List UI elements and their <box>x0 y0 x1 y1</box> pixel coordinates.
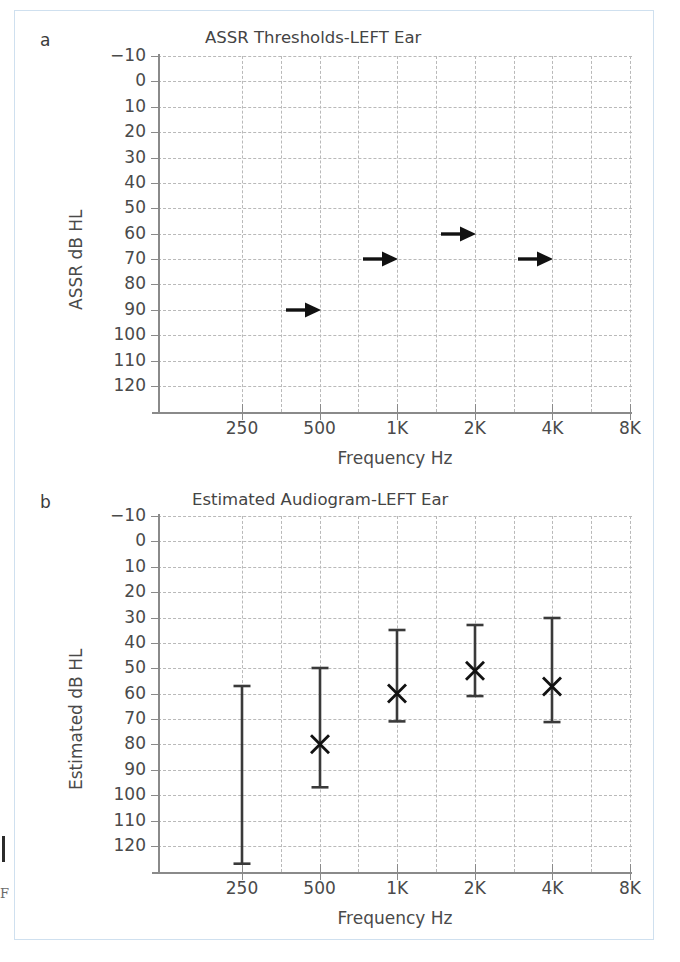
panel-a: a ASSR Thresholds-LEFT Ear −100102030405… <box>0 0 680 470</box>
y-axis-tick <box>151 386 158 387</box>
x-axis-tick-label: 500 <box>280 418 360 438</box>
gridline-vertical <box>591 516 592 872</box>
no-response-arrow-marker <box>514 248 554 270</box>
gridline-horizontal <box>158 386 632 387</box>
gridline-vertical <box>436 516 437 872</box>
panel-b: b Estimated Audiogram-LEFT Ear −10010203… <box>0 470 680 940</box>
error-bar-marker <box>377 614 417 737</box>
y-axis-tick-label: 110 <box>72 810 146 830</box>
gridline-vertical <box>552 56 553 412</box>
gridline-vertical <box>591 56 592 412</box>
y-axis-line <box>158 514 160 874</box>
y-axis-tick-label: 40 <box>72 172 146 192</box>
x-axis-tick-label: 1K <box>357 418 437 438</box>
y-axis-tick-label: −10 <box>72 45 146 65</box>
y-axis-tick <box>151 643 158 644</box>
gridline-vertical <box>320 56 321 412</box>
y-axis-tick <box>151 770 158 771</box>
gridline-horizontal <box>158 132 632 133</box>
y-axis-tick-label: 30 <box>72 607 146 627</box>
gridline-horizontal <box>158 56 632 57</box>
gridline-horizontal <box>158 592 632 593</box>
y-axis-tick <box>151 719 158 720</box>
gridline-horizontal <box>158 234 632 235</box>
y-axis-line <box>158 54 160 414</box>
y-axis-tick <box>151 335 158 336</box>
x-axis-tick-label: 500 <box>280 878 360 898</box>
y-axis-tick-label: 20 <box>72 121 146 141</box>
panel-b-plot-area: −1001020304050607080901001101202505001K2… <box>0 470 680 940</box>
y-axis-tick <box>151 694 158 695</box>
y-axis-tick-label: 20 <box>72 581 146 601</box>
y-axis-tick <box>151 107 158 108</box>
y-axis-tick <box>151 208 158 209</box>
gridline-horizontal <box>158 81 632 82</box>
y-axis-tick <box>151 795 158 796</box>
y-axis-tick-label: −10 <box>72 505 146 525</box>
x-axis-tick-label: 1K <box>357 878 437 898</box>
y-axis-tick-label: 10 <box>72 556 146 576</box>
y-axis-tick <box>151 846 158 847</box>
y-axis-title: ASSR dB HL <box>66 209 86 310</box>
gridline-horizontal <box>158 516 632 517</box>
y-axis-tick-label: 100 <box>72 324 146 344</box>
gridline-vertical <box>281 516 282 872</box>
gridline-horizontal <box>158 567 632 568</box>
x-axis-tick-label: 250 <box>202 878 282 898</box>
gridline-vertical <box>242 56 243 412</box>
y-axis-tick <box>151 592 158 593</box>
x-axis-title: Frequency Hz <box>158 448 632 468</box>
gridline-horizontal <box>158 208 632 209</box>
y-axis-tick <box>151 821 158 822</box>
y-axis-tick <box>151 56 158 57</box>
x-axis-tick-label: 8K <box>590 418 670 438</box>
error-bar-marker <box>532 602 572 738</box>
y-axis-tick-label: 30 <box>72 147 146 167</box>
gridline-vertical <box>397 56 398 412</box>
x-axis-line <box>152 412 632 414</box>
gridline-vertical <box>630 56 631 412</box>
y-axis-tick <box>151 81 158 82</box>
y-axis-tick <box>151 567 158 568</box>
x-axis-tick-label: 2K <box>435 418 515 438</box>
x-axis-tick-label: 4K <box>512 878 592 898</box>
gridline-vertical <box>358 516 359 872</box>
y-axis-tick <box>151 284 158 285</box>
x-axis-title: Frequency Hz <box>158 908 632 928</box>
gridline-horizontal <box>158 158 632 159</box>
gridline-horizontal <box>158 310 632 311</box>
y-axis-tick <box>151 234 158 235</box>
y-axis-tick <box>151 516 158 517</box>
y-axis-tick-label: 110 <box>72 350 146 370</box>
gridline-vertical <box>630 516 631 872</box>
no-response-arrow-marker <box>282 299 322 321</box>
y-axis-tick <box>151 259 158 260</box>
gridline-vertical <box>514 56 515 412</box>
y-axis-tick <box>151 668 158 669</box>
y-axis-tick-label: 0 <box>72 70 146 90</box>
y-axis-tick <box>151 158 158 159</box>
gridline-horizontal <box>158 183 632 184</box>
no-response-arrow-marker <box>359 248 399 270</box>
error-bar-marker <box>222 670 262 880</box>
gridline-horizontal <box>158 284 632 285</box>
y-axis-tick <box>151 361 158 362</box>
y-axis-tick-label: 10 <box>72 96 146 116</box>
x-axis-tick-label: 8K <box>590 878 670 898</box>
gridline-horizontal <box>158 361 632 362</box>
x-axis-tick-label: 250 <box>202 418 282 438</box>
panel-a-plot-area: −1001020304050607080901001101202505001K2… <box>0 0 680 470</box>
x-axis-tick-label: 2K <box>435 878 515 898</box>
y-axis-tick-label: 120 <box>72 375 146 395</box>
figure-root: F a ASSR Thresholds-LEFT Ear −1001020304… <box>0 0 680 962</box>
gridline-horizontal <box>158 107 632 108</box>
y-axis-tick <box>151 541 158 542</box>
x-axis-tick-label: 4K <box>512 418 592 438</box>
error-bar-marker <box>300 652 340 803</box>
y-axis-tick-label: 0 <box>72 530 146 550</box>
gridline-vertical <box>358 56 359 412</box>
y-axis-tick-label: 120 <box>72 835 146 855</box>
y-axis-tick <box>151 744 158 745</box>
y-axis-tick <box>151 310 158 311</box>
y-axis-tick <box>151 618 158 619</box>
